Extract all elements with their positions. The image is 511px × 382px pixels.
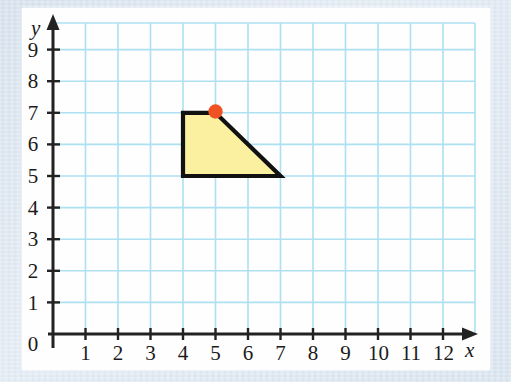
x-tick-label-12: 12 [431, 343, 456, 364]
figure-container: 1 2 3 4 5 6 7 8 9 10 11 12 1 2 3 4 5 6 7… [0, 0, 511, 382]
origin-label: 0 [22, 334, 44, 355]
x-tick-label-5: 5 [206, 343, 226, 364]
coordinate-plot [0, 0, 511, 382]
axes [47, 14, 479, 348]
y-tick-label-9: 9 [22, 40, 44, 61]
y-tick-label-7: 7 [22, 103, 44, 124]
y-tick-label-5: 5 [22, 166, 44, 187]
y-axis-name: y [31, 18, 40, 39]
x-tick-label-3: 3 [141, 343, 161, 364]
x-tick-label-10: 10 [366, 343, 391, 364]
x-tick-label-1: 1 [76, 343, 96, 364]
x-tick-label-11: 11 [399, 343, 424, 364]
x-tick-label-4: 4 [173, 343, 193, 364]
x-tick-label-7: 7 [271, 343, 291, 364]
x-tick-label-6: 6 [238, 343, 258, 364]
x-axis-name: x [465, 340, 474, 361]
y-tick-label-3: 3 [22, 229, 44, 250]
y-axis-arrowhead [47, 14, 60, 30]
x-tick-label-9: 9 [336, 343, 356, 364]
x-tick-label-8: 8 [303, 343, 323, 364]
y-tick-label-2: 2 [22, 261, 44, 282]
x-tick-label-2: 2 [108, 343, 128, 364]
y-tick-label-4: 4 [22, 198, 44, 219]
y-tick-label-8: 8 [22, 71, 44, 92]
y-tick-label-1: 1 [22, 293, 44, 314]
grid-lines [53, 23, 475, 334]
y-tick-label-6: 6 [22, 134, 44, 155]
marked-point-5-7 [208, 104, 222, 118]
